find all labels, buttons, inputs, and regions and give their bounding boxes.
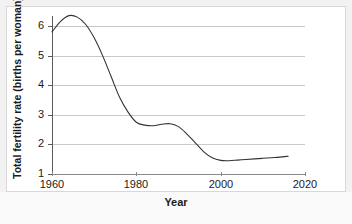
y-tick-5 <box>48 56 52 57</box>
x-tick-2000 <box>221 172 222 176</box>
x-tick-label-1960: 1960 <box>29 178 75 190</box>
gridline-2 <box>52 144 305 145</box>
y-axis-label: Total fertility rate (births per woman) <box>11 9 23 179</box>
fertility-rate-chart-figure: 6 5 4 3 2 1 1960 1980 2000 2020 Year Tot… <box>0 0 352 224</box>
y-tick-3 <box>48 115 52 116</box>
plot-frame <box>6 6 346 192</box>
x-tick-1960 <box>52 172 53 176</box>
x-tick-label-2000: 2000 <box>198 178 244 190</box>
x-tick-1980 <box>136 172 137 176</box>
x-axis-line <box>52 174 306 175</box>
x-axis-label: Year <box>0 196 352 208</box>
gridline-6 <box>52 26 305 27</box>
gridline-5 <box>52 56 305 57</box>
gridline-3 <box>52 115 305 116</box>
gridline-4 <box>52 85 305 86</box>
y-axis-line <box>52 16 53 175</box>
y-tick-4 <box>48 85 52 86</box>
x-tick-2020 <box>305 172 306 176</box>
x-tick-label-1980: 1980 <box>113 178 159 190</box>
y-tick-6 <box>48 26 52 27</box>
y-tick-2 <box>48 144 52 145</box>
x-tick-label-2020: 2020 <box>282 178 328 190</box>
